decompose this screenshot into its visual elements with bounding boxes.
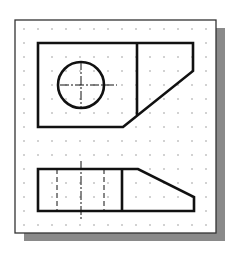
drawing-canvas [0, 0, 233, 254]
